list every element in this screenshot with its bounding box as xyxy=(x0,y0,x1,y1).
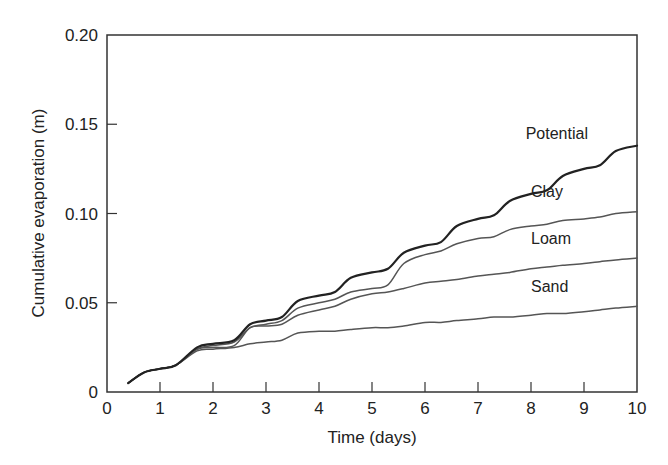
x-axis-title: Time (days) xyxy=(327,428,416,447)
y-tick-label: 0.05 xyxy=(65,294,98,313)
y-tick-label: 0.20 xyxy=(65,26,98,45)
y-tick-label: 0.15 xyxy=(65,115,98,134)
y-tick-label: 0 xyxy=(89,383,98,402)
y-tick-label: 0.10 xyxy=(65,205,98,224)
series-label-loam: Loam xyxy=(531,230,571,247)
series-label-clay: Clay xyxy=(531,183,563,200)
x-tick-label: 6 xyxy=(420,399,429,418)
x-tick-label: 2 xyxy=(208,399,217,418)
plot-frame xyxy=(107,35,637,392)
evaporation-chart: 01234567891000.050.100.150.20 PotentialC… xyxy=(0,0,668,465)
series-label-sand: Sand xyxy=(531,278,568,295)
x-tick-label: 9 xyxy=(579,399,588,418)
x-tick-label: 3 xyxy=(261,399,270,418)
x-tick-label: 8 xyxy=(526,399,535,418)
series-line-loam xyxy=(128,258,637,383)
x-tick-label: 7 xyxy=(473,399,482,418)
x-tick-label: 10 xyxy=(628,399,647,418)
x-tick-label: 4 xyxy=(314,399,323,418)
x-tick-label: 5 xyxy=(367,399,376,418)
series-layer xyxy=(128,146,637,383)
x-tick-label: 1 xyxy=(155,399,164,418)
y-axis-title: Cumulative evaporation (m) xyxy=(29,109,48,318)
series-labels: PotentialClayLoamSand xyxy=(526,125,588,296)
x-tick-label: 0 xyxy=(102,399,111,418)
series-label-potential: Potential xyxy=(526,125,588,142)
